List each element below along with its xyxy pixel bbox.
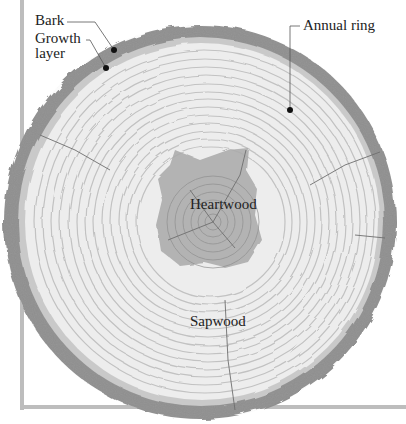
label-sapwood: Sapwood bbox=[190, 314, 246, 329]
label-bark: Bark bbox=[35, 13, 64, 28]
label-heartwood: Heartwood bbox=[190, 197, 257, 212]
label-growth-layer-line2: layer bbox=[35, 46, 65, 61]
label-growth-layer-line1: Growth bbox=[35, 31, 81, 46]
label-annual-ring: Annual ring bbox=[303, 18, 375, 33]
growth-layer-dot bbox=[103, 65, 109, 71]
bark-dot bbox=[111, 47, 117, 53]
annual-ring-dot bbox=[287, 107, 293, 113]
log-illustration bbox=[0, 0, 406, 424]
tree-cross-section-diagram: Bark Growth layer Annual ring Heartwood … bbox=[0, 0, 406, 424]
